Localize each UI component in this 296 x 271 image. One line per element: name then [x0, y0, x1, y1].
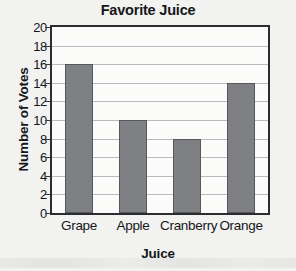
chart-title: Favorite Juice	[0, 2, 296, 18]
scan-artifact	[0, 258, 296, 268]
x-axis-tick-label: Cranberry	[160, 218, 214, 233]
y-axis-tick-label: 12	[33, 95, 47, 108]
x-axis-tick-label: Apple	[106, 218, 160, 233]
y-axis-tick-label: 20	[33, 21, 47, 34]
y-axis-tick-label: 18	[33, 39, 47, 52]
y-axis-title: Number of Votes	[16, 35, 31, 205]
x-axis-tick-label: Orange	[214, 218, 268, 233]
bar	[173, 139, 201, 213]
bar	[227, 83, 255, 213]
bar-chart-figure: Favorite Juice Number of Votes 201816141…	[0, 0, 296, 271]
bar	[65, 64, 93, 213]
y-axis-tick-label: 10	[33, 114, 47, 127]
y-axis-tick-label: 14	[33, 76, 47, 89]
y-axis-tick-label: 4	[40, 169, 47, 182]
y-axis-tick-label: 2	[40, 188, 47, 201]
plot-area	[50, 25, 270, 215]
y-axis-tick-label: 0	[40, 207, 47, 220]
bars-layer	[52, 27, 268, 213]
y-axis-tick-label: 8	[40, 132, 47, 145]
x-axis-tick-label: Grape	[52, 218, 106, 233]
y-axis-tick-label: 6	[40, 151, 47, 164]
y-axis-tick-label: 16	[33, 58, 47, 71]
bar	[119, 120, 147, 213]
